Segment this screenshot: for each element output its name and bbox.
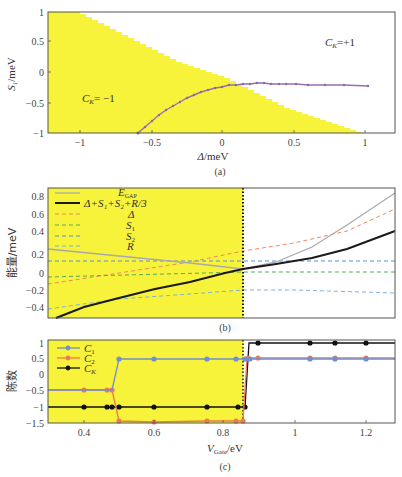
y-tick: 0: [39, 67, 44, 78]
x-tick: −0.5: [143, 137, 161, 148]
y-tick: −0.2: [26, 285, 44, 296]
y-tick: 0.8: [32, 191, 45, 202]
panel-a-ylabel: S1/meV: [5, 57, 19, 90]
annotation-ck-minus: CK= −1: [82, 92, 115, 106]
panel-b-ylabel: 能量/meV: [5, 227, 19, 278]
legend-marker-c2: [66, 356, 71, 361]
panel-b-caption: (b): [219, 322, 231, 334]
panel-c-x-tick-labels: 0.4 0.6 0.8 1 1.2: [78, 427, 373, 438]
y-tick: 1: [39, 7, 44, 18]
y-tick: −1: [33, 128, 44, 139]
y-tick: 0.5: [32, 36, 45, 47]
panel-a: −1 −0.5 0 0.5 1 1 0.5 0 −0.5 −1 Δ/meV S1…: [5, 7, 395, 178]
y-tick: −0.5: [26, 98, 44, 109]
y-tick: −0.4: [26, 302, 44, 313]
y-tick: 0.2: [32, 249, 45, 260]
x-tick: 1: [363, 137, 368, 148]
legend-label-sum: Δ+S₁+S₂+R/3: [83, 197, 147, 209]
figure: −1 −0.5 0 0.5 1 1 0.5 0 −0.5 −1 Δ/meV S1…: [0, 0, 402, 477]
panel-c: C1 C2 CK 0.4 0.6 0.8 1 1.2 1 0.5 0 −0.5 …: [5, 338, 395, 473]
y-tick: 0.6: [32, 209, 45, 220]
panel-c-yellow-region: [48, 340, 243, 423]
y-tick: 0.4: [32, 226, 45, 237]
y-tick: −1: [33, 402, 44, 413]
panel-c-caption: (c): [219, 461, 230, 473]
panel-a-caption: (a): [214, 166, 225, 178]
y-tick: −1.5: [26, 418, 44, 429]
legend-marker-ck: [66, 366, 71, 371]
annotation-ck-plus: CK=+1: [325, 36, 355, 50]
y-tick: 0: [39, 268, 44, 279]
panel-b-y-tick-labels: 0.8 0.6 0.4 0.2 0 −0.2 −0.4: [26, 191, 44, 313]
panel-c-y-tick-labels: 1 0.5 0 −0.5 −1 −1.5: [26, 338, 44, 429]
panel-a-x-tick-labels: −1 −0.5 0 0.5 1: [75, 137, 368, 148]
panel-c-ylabel: 陈数: [5, 370, 19, 392]
panel-c-xlabel: VGate/eV: [207, 442, 243, 456]
x-tick: 0.8: [217, 427, 230, 438]
x-tick: 0.5: [288, 137, 301, 148]
x-tick: −1: [75, 137, 86, 148]
y-tick: 0.5: [32, 353, 45, 364]
panel-b: EGAP Δ+S₁+S₂+R/3 Δ S1 S2 R 0.8 0.6 0.4 0…: [5, 186, 395, 334]
panel-a-y-tick-labels: 1 0.5 0 −0.5 −1: [26, 7, 44, 139]
legend-marker-c1: [66, 346, 71, 351]
y-tick: 1: [39, 338, 44, 349]
y-tick: 0: [39, 369, 44, 380]
x-tick: 0.6: [148, 427, 161, 438]
x-tick: 0: [220, 137, 225, 148]
panel-a-xlabel: Δ/meV: [197, 150, 229, 162]
x-tick: 1: [293, 427, 298, 438]
x-tick: 0.4: [78, 427, 91, 438]
y-tick: −0.5: [26, 385, 44, 396]
legend-label-r: R: [126, 240, 134, 252]
x-tick: 1.2: [360, 427, 373, 438]
